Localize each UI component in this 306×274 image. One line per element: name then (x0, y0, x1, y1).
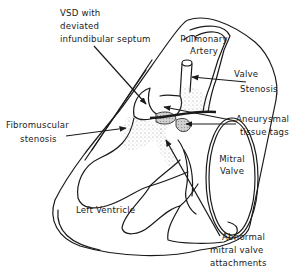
label-vsd-line3: infundibular septum (60, 34, 151, 45)
label-valve-stenosis-line1: Valve (234, 69, 258, 80)
label-aneurysmal-line1: Aneurysmal (236, 114, 289, 125)
label-abnormal-line3: attachments (210, 258, 267, 269)
label-abnormal-line1: Abnormal (222, 232, 265, 243)
label-fibromuscular-line2: stenosis (20, 134, 57, 145)
label-pulmonary-line2: Artery (176, 46, 232, 57)
label-aneurysmal-line2: tissue tags (240, 127, 289, 138)
label-valve-stenosis-line2: Stenosis (240, 84, 278, 95)
label-mitral-line1: Mitral (208, 154, 256, 165)
label-vsd-line2: deviated (60, 21, 99, 32)
arrow-vsd (94, 46, 146, 104)
aneurysmal-tag-2 (176, 118, 190, 131)
label-mitral-line2: Valve (208, 166, 256, 177)
label-fibromuscular-line1: Fibromuscular (6, 120, 69, 131)
heart-diagram: VSD with deviated infundibular septum Pu… (0, 0, 306, 274)
arrow-fibromuscular (66, 128, 126, 136)
label-left-ventricle: Left Ventricle (76, 205, 135, 216)
label-pulmonary-line1: Pulmonary (176, 34, 232, 45)
label-vsd-line1: VSD with (60, 8, 101, 19)
label-abnormal-line2: mitral valve (210, 245, 264, 256)
